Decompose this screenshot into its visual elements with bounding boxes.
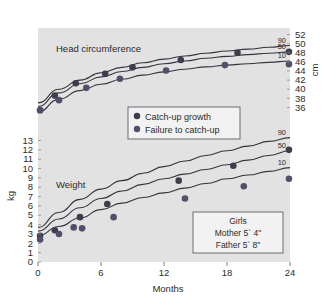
x-axis-title: Months	[152, 283, 183, 294]
data-point	[234, 49, 241, 56]
x-axis-ticks: 06121824	[35, 262, 295, 278]
x-tick-label: 6	[98, 267, 103, 278]
legend-marker-failure-to-catch-up	[134, 126, 140, 132]
data-point	[163, 67, 170, 74]
x-tick-label: 18	[222, 267, 233, 278]
data-point	[286, 147, 293, 154]
y-tick-label: 13	[22, 135, 33, 146]
data-point	[222, 62, 229, 69]
info-box-line-father: Father 5` 8"	[216, 240, 261, 250]
data-point	[37, 107, 44, 114]
data-point	[129, 64, 136, 71]
data-point	[56, 97, 63, 104]
data-point	[104, 201, 111, 208]
y-tick-label: 1	[28, 247, 33, 258]
info-box: Girls Mother 5` 4" Father 5` 8"	[193, 212, 283, 253]
legend: Catch-up growth Failure to catch-up	[128, 107, 240, 139]
data-point	[117, 75, 124, 82]
data-point	[286, 176, 293, 183]
data-point	[102, 70, 109, 77]
weight-panel-label: Weight	[56, 179, 86, 190]
data-point	[178, 57, 185, 64]
percentile-label-50: 50	[278, 141, 286, 150]
growth-chart-figure: 06121824 012345678910111213 363840424446…	[0, 0, 336, 305]
data-point	[79, 225, 86, 232]
growth-chart-svg: 06121824 012345678910111213 363840424446…	[0, 0, 336, 305]
x-tick-label: 12	[159, 267, 170, 278]
data-point	[70, 224, 77, 231]
left-axis-title: kg	[5, 191, 16, 201]
legend-label-catch-up-growth: Catch-up growth	[145, 112, 211, 122]
data-point	[37, 236, 44, 243]
right-axis-title: cm	[309, 64, 320, 77]
legend-label-failure-to-catch-up: Failure to catch-up	[145, 125, 220, 135]
data-point	[230, 162, 237, 169]
data-point	[241, 183, 248, 190]
y-tick-label: 52	[295, 29, 306, 40]
data-point	[73, 80, 80, 87]
percentile-label-50: 50	[278, 42, 286, 51]
legend-marker-catch-up-growth	[134, 113, 140, 119]
head-panel-label: Head circumference	[56, 43, 141, 54]
data-point	[182, 195, 189, 202]
percentile-label-90: 90	[278, 128, 286, 137]
percentile-label-10: 10	[278, 158, 286, 167]
data-point	[83, 85, 90, 92]
data-point	[286, 49, 293, 56]
x-tick-label: 0	[35, 267, 40, 278]
data-point	[175, 177, 182, 184]
info-box-line-mother: Mother 5` 4"	[215, 228, 261, 238]
percentile-label-10: 10	[278, 51, 286, 60]
data-point	[56, 231, 63, 238]
x-tick-label: 24	[285, 267, 296, 278]
data-point	[110, 214, 117, 221]
data-point	[77, 214, 84, 221]
info-box-line-sex: Girls	[229, 216, 246, 226]
